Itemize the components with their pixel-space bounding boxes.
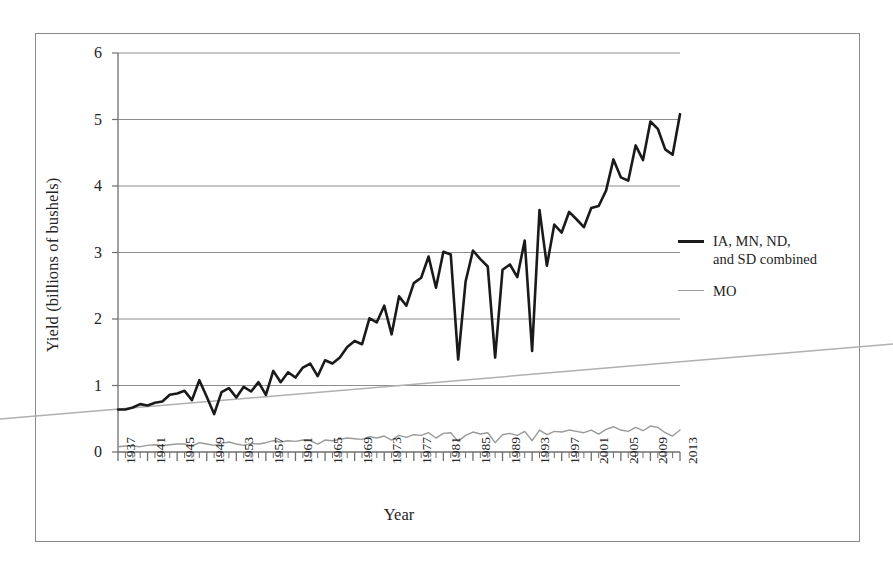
y-axis-title: Yield (billions of bushels) xyxy=(43,150,63,380)
x-tick-label: 1965 xyxy=(331,437,345,464)
legend-swatch-mo-icon xyxy=(678,290,704,291)
x-axis-title: Year xyxy=(118,505,680,525)
y-tick-label: 6 xyxy=(76,45,102,61)
x-tick-label: 2013 xyxy=(686,437,700,464)
legend-item-mo: MO xyxy=(678,282,856,300)
y-tick-label: 0 xyxy=(76,444,102,460)
legend-swatch-combined-icon xyxy=(678,240,704,243)
x-tick-label: 1981 xyxy=(449,437,463,464)
x-tick-label: 2005 xyxy=(627,437,641,464)
x-tick-label: 1969 xyxy=(361,437,375,464)
y-tick-label: 2 xyxy=(76,311,102,327)
x-tick-label: 1937 xyxy=(124,437,138,464)
x-tick-label: 1945 xyxy=(183,437,197,464)
x-tick-label: 2001 xyxy=(597,437,611,464)
x-tick-label: 1977 xyxy=(420,437,434,464)
x-tick-label: 1989 xyxy=(509,437,523,464)
legend-label-combined-line2: and SD combined xyxy=(713,251,817,267)
x-tick-label: 1941 xyxy=(154,437,168,464)
legend-item-combined: IA, MN, ND, and SD combined xyxy=(678,232,856,268)
x-tick-label: 1949 xyxy=(213,437,227,464)
y-tick-label: 5 xyxy=(76,112,102,128)
x-tick-label: 1993 xyxy=(538,437,552,464)
legend-label-combined: IA, MN, ND, and SD combined xyxy=(713,232,817,268)
x-tick-label: 1997 xyxy=(568,437,582,464)
y-tick-label: 4 xyxy=(76,178,102,194)
figure-container: 0123456 19371941194519491953195719611965… xyxy=(0,0,893,562)
legend-label-combined-line1: IA, MN, ND, xyxy=(713,233,791,249)
x-tick-label: 1961 xyxy=(301,437,315,464)
x-tick-label: 1953 xyxy=(242,437,256,464)
y-tick-label: 1 xyxy=(76,378,102,394)
x-tick-label: 1973 xyxy=(390,437,404,464)
legend: IA, MN, ND, and SD combined MO xyxy=(678,232,856,314)
x-tick-label: 1957 xyxy=(272,437,286,464)
y-tick-label: 3 xyxy=(76,245,102,261)
x-tick-label: 1985 xyxy=(479,437,493,464)
x-tick-label: 2009 xyxy=(656,437,670,464)
legend-label-mo: MO xyxy=(713,282,736,300)
